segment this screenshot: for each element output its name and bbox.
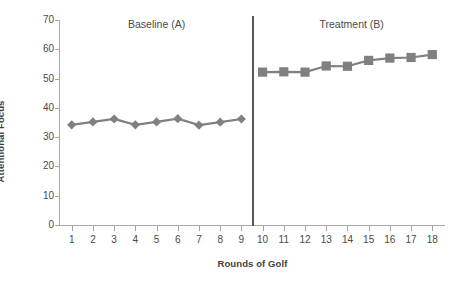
x-axis-tick-mark bbox=[72, 226, 73, 231]
x-axis-tick-mark bbox=[135, 226, 136, 231]
y-axis-tick-mark bbox=[55, 20, 60, 21]
x-axis-tick-mark bbox=[326, 226, 327, 231]
data-point-diamond bbox=[131, 120, 140, 129]
data-point-square bbox=[300, 68, 309, 77]
data-point-diamond bbox=[110, 114, 119, 123]
y-axis-tick-label: 0 bbox=[28, 220, 54, 230]
x-axis-tick-mark bbox=[178, 226, 179, 231]
x-axis-tick-label: 18 bbox=[417, 234, 447, 245]
x-axis-title: Rounds of Golf bbox=[60, 258, 445, 269]
x-axis-tick-mark bbox=[220, 226, 221, 231]
phase-label: Treatment (B) bbox=[319, 18, 383, 30]
data-point-square bbox=[258, 68, 267, 77]
x-axis-tick-mark bbox=[114, 226, 115, 231]
data-point-square bbox=[364, 56, 373, 65]
series-line bbox=[263, 55, 433, 73]
x-axis-tick-mark bbox=[432, 226, 433, 231]
y-axis-tick-mark bbox=[55, 196, 60, 197]
y-axis-tick-mark bbox=[55, 225, 60, 226]
data-point-diamond bbox=[237, 114, 246, 123]
data-point-square bbox=[428, 50, 437, 59]
data-point-diamond bbox=[194, 121, 203, 130]
x-axis-tick-mark bbox=[93, 226, 94, 231]
y-axis-tick-mark bbox=[55, 49, 60, 50]
x-axis-tick-mark bbox=[199, 226, 200, 231]
x-axis-tick-mark bbox=[305, 226, 306, 231]
y-axis-tick-label: 60 bbox=[28, 44, 54, 54]
series-group bbox=[67, 114, 246, 130]
phase-divider bbox=[252, 16, 254, 226]
x-axis-tick-mark bbox=[369, 226, 370, 231]
y-axis-tick-label: 40 bbox=[28, 103, 54, 113]
phase-label: Baseline (A) bbox=[128, 18, 185, 30]
y-axis-tick-label: 10 bbox=[28, 191, 54, 201]
x-axis-tick-mark bbox=[241, 226, 242, 231]
data-point-square bbox=[322, 61, 331, 70]
series-group bbox=[258, 50, 437, 77]
data-point-square bbox=[385, 53, 394, 62]
y-axis-tick-mark bbox=[55, 108, 60, 109]
y-axis-tick-mark bbox=[55, 79, 60, 80]
attentional-focus-chart: Attentional Focus Rounds of Golf 0102030… bbox=[0, 0, 453, 283]
x-axis-tick-mark bbox=[284, 226, 285, 231]
y-axis-tick-mark bbox=[55, 137, 60, 138]
x-axis-tick-mark bbox=[390, 226, 391, 231]
y-axis-tick-mark bbox=[55, 166, 60, 167]
x-axis-tick-mark bbox=[263, 226, 264, 231]
data-point-square bbox=[343, 62, 352, 71]
data-point-diamond bbox=[173, 114, 182, 123]
y-axis-tick-label: 30 bbox=[28, 132, 54, 142]
x-axis-tick-mark bbox=[411, 226, 412, 231]
x-axis-tick-mark bbox=[157, 226, 158, 231]
data-point-diamond bbox=[216, 118, 225, 127]
series-line bbox=[72, 119, 242, 125]
y-axis-tick-label: 50 bbox=[28, 74, 54, 84]
data-point-diamond bbox=[88, 117, 97, 126]
y-axis-tick-label: 20 bbox=[28, 161, 54, 171]
data-point-diamond bbox=[67, 120, 76, 129]
y-axis-tick-labels: 010203040506070 bbox=[26, 0, 54, 283]
y-axis-tick-label: 70 bbox=[28, 15, 54, 25]
data-point-diamond bbox=[152, 117, 161, 126]
data-point-square bbox=[406, 53, 415, 62]
x-axis-tick-mark bbox=[347, 226, 348, 231]
data-point-square bbox=[279, 67, 288, 76]
